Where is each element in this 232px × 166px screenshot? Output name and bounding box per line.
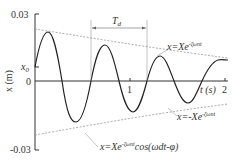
x-tick-2: 2 xyxy=(222,84,227,95)
y-tick-x0: x0 xyxy=(20,61,29,74)
y-tick-top: 0.03 xyxy=(11,9,29,20)
damped-oscillation-chart: 0.03 x0 0 -0.03 x (m) 1 2 t (s) Td x=Xe-… xyxy=(0,0,232,166)
y-tick-bottom: -0.03 xyxy=(10,144,31,155)
lower-envelope-label: x=-Xe-ζωnt xyxy=(176,111,215,122)
upper-envelope-label: x=Xe-ζωnt xyxy=(166,41,202,52)
response-label: x=Xe-ζωntcos(ωdt-φ) xyxy=(99,141,179,153)
x-tick-1: 1 xyxy=(127,84,132,95)
y-axis-label: x (m) xyxy=(3,70,15,92)
y-tick-zero: 0 xyxy=(26,76,31,87)
x-axis-label: t (s) xyxy=(200,84,217,96)
period-label: Td xyxy=(112,15,122,28)
